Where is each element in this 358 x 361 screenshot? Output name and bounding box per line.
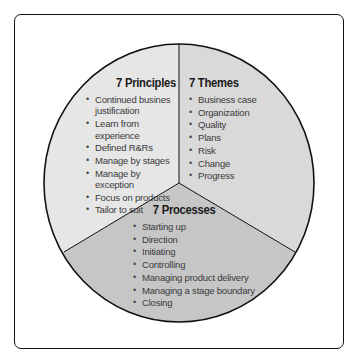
list-item: Focus on products — [86, 192, 176, 203]
processes-section: 7 Processes Starting up Direction Initia… — [133, 203, 263, 310]
list-item: Direction — [133, 234, 263, 245]
processes-title: 7 Processes — [133, 203, 250, 217]
list-item: Learn from experience — [86, 118, 176, 141]
list-item: Plans — [189, 132, 279, 143]
list-item: Starting up — [133, 221, 263, 232]
list-item: Quality — [189, 119, 279, 130]
list-item: Change — [189, 158, 279, 169]
principles-title: 7 Principles — [95, 76, 176, 90]
principles-section: 7 Principles Continued busines justifica… — [86, 76, 176, 217]
list-item: Risk — [189, 145, 279, 156]
list-item: Controlling — [133, 259, 263, 270]
list-item: Manage by exception — [86, 168, 176, 191]
list-item: Progress — [189, 170, 279, 181]
themes-section: 7 Themes Business case Organization Qual… — [189, 76, 279, 183]
list-item: Defined R&Rs — [86, 142, 176, 153]
list-item: Managing a stage boundary — [133, 285, 263, 296]
list-item: Closing — [133, 297, 263, 308]
list-item: Business case — [189, 94, 279, 105]
list-item: Manage by stages — [86, 155, 176, 166]
list-item: Continued busines justification — [86, 94, 176, 117]
themes-title: 7 Themes — [189, 76, 270, 90]
processes-list: Starting up Direction Initiating Control… — [133, 221, 263, 309]
themes-list: Business case Organization Quality Plans… — [189, 94, 279, 182]
principles-list: Continued busines justification Learn fr… — [86, 94, 176, 216]
list-item: Initiating — [133, 246, 263, 257]
list-item: Managing product delivery — [133, 272, 263, 283]
list-item: Organization — [189, 107, 279, 118]
